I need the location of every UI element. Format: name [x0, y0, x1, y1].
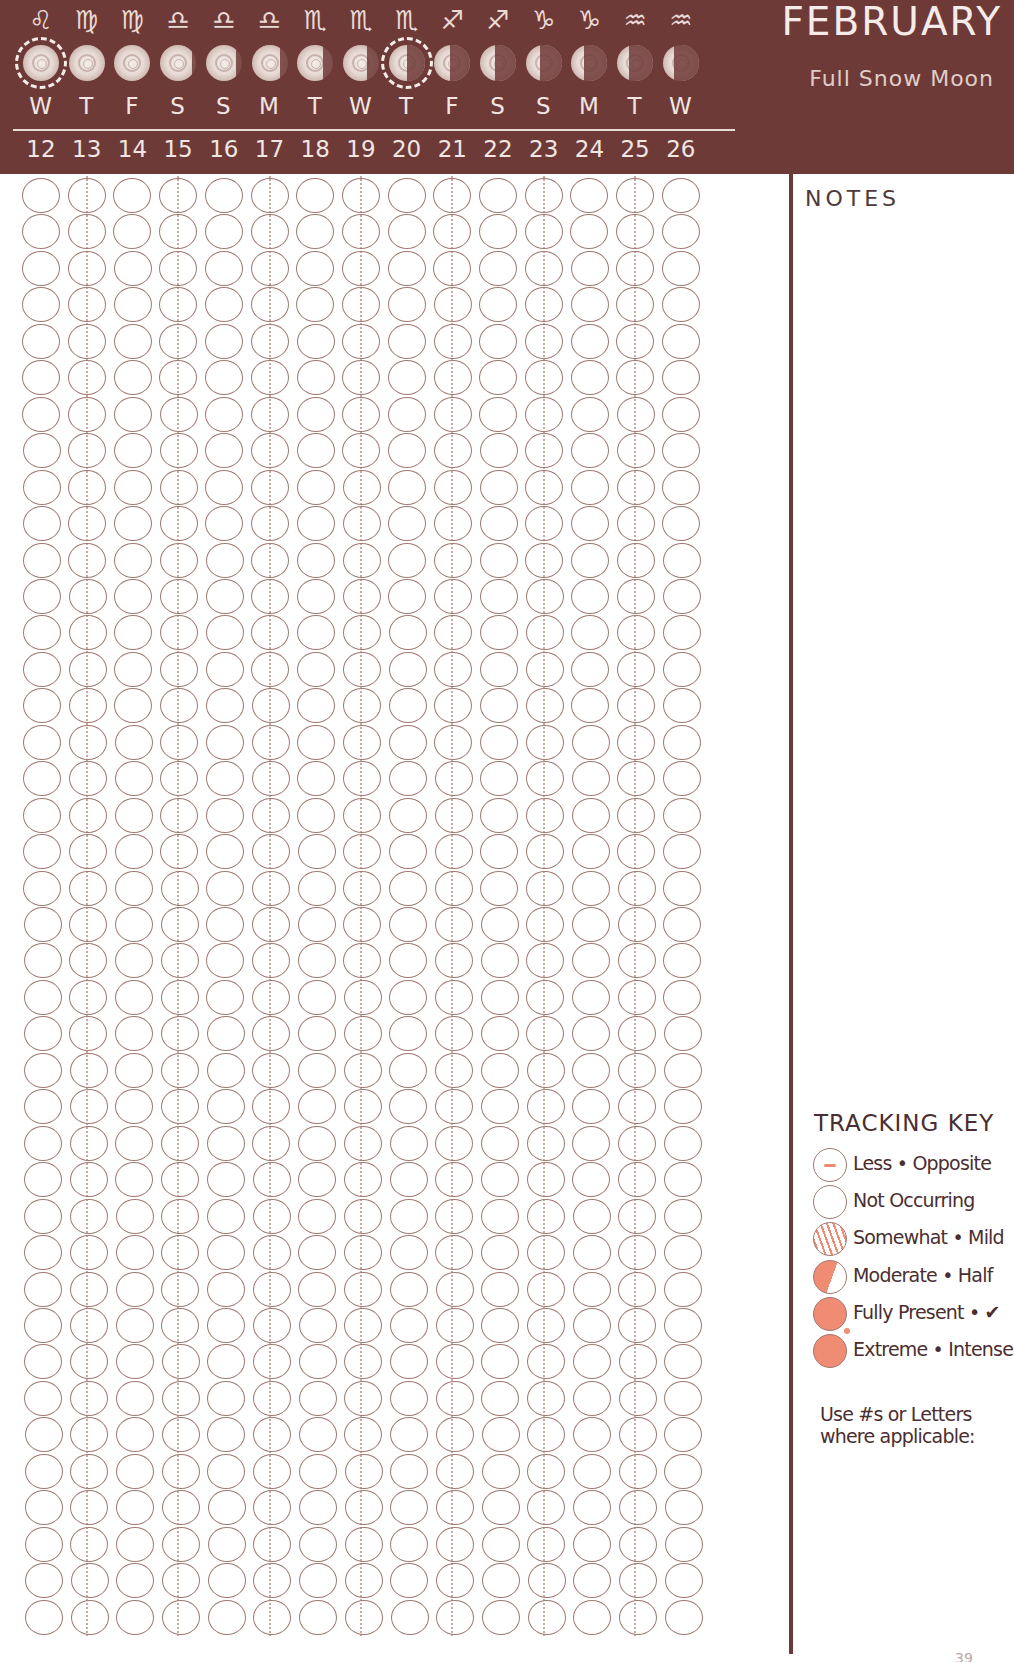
tracker-circle[interactable] [251, 360, 289, 395]
tracker-circle[interactable] [435, 943, 473, 978]
tracker-circle[interactable] [297, 324, 335, 359]
tracker-circle[interactable] [434, 360, 472, 395]
tracker-circle[interactable] [116, 1235, 154, 1270]
tracker-circle[interactable] [526, 943, 564, 978]
tracker-circle[interactable] [480, 798, 518, 833]
tracker-circle[interactable] [297, 798, 335, 833]
tracker-circle[interactable] [251, 324, 289, 359]
tracker-circle[interactable] [343, 615, 381, 650]
tracker-circle[interactable] [344, 1417, 382, 1452]
tracker-circle[interactable] [435, 761, 473, 796]
tracker-circle[interactable] [342, 433, 380, 468]
tracker-circle[interactable] [436, 1600, 474, 1635]
tracker-circle[interactable] [436, 1344, 474, 1379]
tracker-circle[interactable] [526, 761, 564, 796]
tracker-circle[interactable] [525, 287, 563, 322]
tracker-circle[interactable] [480, 470, 518, 505]
tracker-circle[interactable] [619, 1454, 657, 1489]
tracker-circle[interactable] [389, 615, 427, 650]
tracker-circle[interactable] [527, 1089, 565, 1124]
tracker-circle[interactable] [571, 324, 609, 359]
tracker-circle[interactable] [482, 1600, 520, 1635]
tracker-circle[interactable] [572, 1162, 610, 1197]
tracker-circle[interactable] [527, 1417, 565, 1452]
tracker-circle[interactable] [297, 360, 335, 395]
tracker-circle[interactable] [298, 1235, 336, 1270]
tracker-circle[interactable] [162, 1490, 200, 1525]
tracker-circle[interactable] [573, 1235, 611, 1270]
tracker-circle[interactable] [388, 433, 426, 468]
tracker-circle[interactable] [70, 1126, 108, 1161]
tracker-circle[interactable] [206, 871, 244, 906]
tracker-circle[interactable] [205, 324, 243, 359]
tracker-circle[interactable] [389, 761, 427, 796]
tracker-circle[interactable] [388, 214, 426, 249]
tracker-circle[interactable] [162, 1417, 200, 1452]
tracker-circle[interactable] [389, 980, 427, 1015]
tracker-circle[interactable] [160, 652, 198, 687]
tracker-circle[interactable] [664, 1053, 702, 1088]
tracker-circle[interactable] [205, 506, 243, 541]
tracker-circle[interactable] [572, 798, 610, 833]
tracker-circle[interactable] [252, 1126, 290, 1161]
tracker-circle[interactable] [342, 214, 380, 249]
tracker-circle[interactable] [664, 1199, 702, 1234]
tracker-circle[interactable] [114, 397, 152, 432]
tracker-circle[interactable] [299, 1344, 337, 1379]
tracker-circle[interactable] [482, 1563, 520, 1598]
tracker-circle[interactable] [664, 1235, 702, 1270]
tracker-circle[interactable] [207, 1126, 245, 1161]
tracker-circle[interactable] [344, 1089, 382, 1124]
tracker-circle[interactable] [388, 470, 426, 505]
tracker-circle[interactable] [479, 397, 517, 432]
tracker-circle[interactable] [70, 1272, 108, 1307]
tracker-circle[interactable] [528, 1563, 566, 1598]
tracker-circle[interactable] [344, 1053, 382, 1088]
tracker-circle[interactable] [388, 360, 426, 395]
tracker-circle[interactable] [480, 543, 518, 578]
tracker-circle[interactable] [526, 579, 564, 614]
tracker-circle[interactable] [252, 1016, 290, 1051]
tracker-circle[interactable] [23, 798, 61, 833]
tracker-circle[interactable] [159, 251, 197, 286]
tracker-circle[interactable] [435, 980, 473, 1015]
tracker-circle[interactable] [69, 688, 107, 723]
tracker-circle[interactable] [22, 214, 60, 249]
tracker-circle[interactable] [70, 1308, 108, 1343]
tracker-circle[interactable] [616, 251, 654, 286]
tracker-circle[interactable] [24, 1308, 62, 1343]
tracker-circle[interactable] [665, 1490, 703, 1525]
tracker-circle[interactable] [390, 1162, 428, 1197]
tracker-circle[interactable] [390, 1199, 428, 1234]
tracker-circle[interactable] [389, 907, 427, 942]
tracker-circle[interactable] [664, 1016, 702, 1051]
tracker-circle[interactable] [573, 1417, 611, 1452]
tracker-circle[interactable] [159, 324, 197, 359]
tracker-circle[interactable] [343, 652, 381, 687]
tracker-circle[interactable] [344, 1344, 382, 1379]
tracker-circle[interactable] [571, 506, 609, 541]
tracker-circle[interactable] [663, 834, 701, 869]
tracker-circle[interactable] [344, 1016, 382, 1051]
tracker-circle[interactable] [388, 543, 426, 578]
tracker-circle[interactable] [482, 1454, 520, 1489]
tracker-circle[interactable] [526, 615, 564, 650]
tracker-circle[interactable] [527, 1053, 565, 1088]
tracker-circle[interactable] [345, 1490, 383, 1525]
tracker-circle[interactable] [116, 1199, 154, 1234]
tracker-circle[interactable] [388, 506, 426, 541]
tracker-circle[interactable] [662, 433, 700, 468]
tracker-circle[interactable] [342, 287, 380, 322]
tracker-circle[interactable] [115, 907, 153, 942]
tracker-circle[interactable] [617, 470, 655, 505]
tracker-circle[interactable] [115, 1053, 153, 1088]
tracker-circle[interactable] [22, 360, 60, 395]
tracker-circle[interactable] [160, 798, 198, 833]
tracker-circle[interactable] [342, 251, 380, 286]
tracker-circle[interactable] [434, 287, 472, 322]
tracker-circle[interactable] [23, 506, 61, 541]
tracker-circle[interactable] [390, 1235, 428, 1270]
tracker-circle[interactable] [435, 907, 473, 942]
tracker-circle[interactable] [390, 1490, 428, 1525]
tracker-circle[interactable] [114, 688, 152, 723]
